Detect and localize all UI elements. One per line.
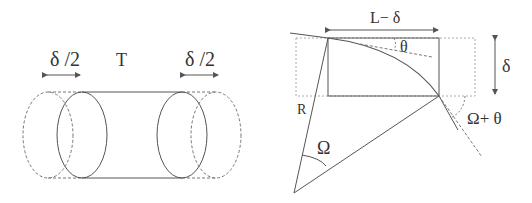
right-shift-label: δ /2 (185, 48, 215, 70)
dashed-left-ellipse (23, 92, 73, 178)
second-radius-line (294, 96, 439, 193)
top-tangent-line (290, 33, 328, 38)
omega-label: Ω (317, 138, 330, 158)
left-shift-label: δ /2 (50, 48, 80, 70)
inner-rect (328, 38, 439, 96)
solid-right-ellipse (157, 92, 207, 178)
chord-length-label: L− δ (370, 9, 400, 26)
omega-plus-theta-label: Ω+ θ (467, 109, 502, 128)
delta-label: δ (502, 56, 510, 76)
geometry-figure: L− δ θ δ R Ω Ω+ θ (290, 9, 510, 193)
radius-label: R (297, 102, 307, 117)
outer-dotted-rect (296, 38, 475, 96)
theta-label: θ (400, 38, 408, 55)
arc-curve (328, 38, 439, 96)
cylinder-figure: δ /2 T δ /2 (23, 48, 241, 178)
tension-label: T (116, 50, 127, 70)
dashed-right-ellipse (191, 92, 241, 178)
diagram-canvas: δ /2 T δ /2 L− δ θ δ R Ω (0, 0, 532, 203)
solid-left-ellipse (57, 92, 107, 178)
